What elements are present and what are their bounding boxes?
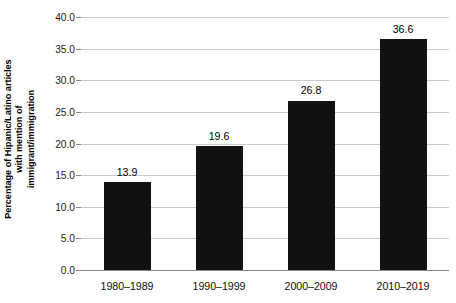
y-axis-tick-label: 35.0: [33, 43, 75, 54]
y-axis-tick-label: 30.0: [33, 75, 75, 86]
bar: [104, 182, 151, 270]
bar-value-label: 19.6: [189, 130, 249, 142]
bar-chart: Percentage of Hipanic/Latino articles wi…: [0, 0, 456, 303]
bar: [288, 101, 335, 271]
bars-layer: 13.919.626.836.6: [81, 17, 449, 270]
y-axis-tick-label: 20.0: [33, 138, 75, 149]
plot-area: 0.05.010.015.020.025.030.035.040.0 13.91…: [81, 17, 449, 270]
y-tick-mark: [76, 270, 81, 271]
x-axis-tick-label: 1980–1989: [82, 280, 172, 292]
y-axis-tick-label: 10.0: [33, 201, 75, 212]
y-axis-tick-label: 40.0: [33, 12, 75, 23]
bar-value-label: 13.9: [97, 166, 157, 178]
gridline: [81, 270, 449, 271]
x-axis-tick-label: 2010–2019: [358, 280, 448, 292]
x-axis-tick-label: 1990–1999: [174, 280, 264, 292]
y-axis-title-line-1: Percentage of Hipanic/Latino articles: [3, 59, 14, 219]
y-axis-title-line-2: with mention of: [14, 59, 25, 219]
x-axis-tick-label: 2000–2009: [266, 280, 356, 292]
bar-value-label: 36.6: [373, 23, 433, 35]
y-axis-tick-label: 15.0: [33, 170, 75, 181]
bar: [380, 39, 427, 270]
y-axis-tick-label: 25.0: [33, 106, 75, 117]
y-axis-tick-label: 0.0: [33, 265, 75, 276]
bar: [196, 146, 243, 270]
bar-value-label: 26.8: [281, 84, 341, 96]
y-axis-tick-label: 5.0: [33, 233, 75, 244]
